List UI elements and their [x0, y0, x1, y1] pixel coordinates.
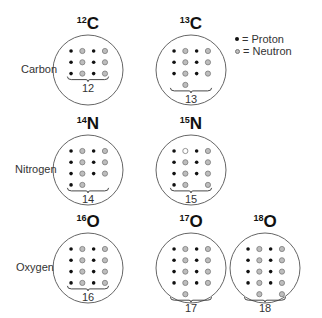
neutron-dot-icon	[80, 71, 85, 76]
neutron-dot-icon	[183, 148, 188, 153]
legend: = Proton = Neutron	[235, 33, 292, 57]
mass-number: 12	[82, 82, 94, 94]
neutron-dot-icon	[205, 60, 210, 65]
nucleus-circle	[230, 233, 300, 303]
neutron-dot-icon	[257, 280, 262, 285]
nucleus-circle	[53, 35, 123, 105]
proton-dot-icon	[172, 259, 176, 263]
isotope-c-12: 12C12	[53, 14, 123, 105]
proton-dot-icon	[69, 281, 73, 285]
isotope-n-14: 14N14	[53, 114, 123, 205]
mass-number: 18	[259, 302, 271, 314]
neutron-dot-icon	[102, 48, 107, 53]
neutron-dot-icon	[183, 258, 188, 263]
proton-dot-icon	[69, 149, 73, 153]
proton-dot-icon	[235, 37, 239, 41]
proton-dot-icon	[92, 281, 96, 285]
isotope-label: 13C	[180, 14, 202, 33]
neutron-dot-icon	[80, 48, 85, 53]
proton-dot-icon	[172, 172, 176, 176]
neutron-dot-icon	[183, 171, 188, 176]
proton-dot-icon	[195, 270, 199, 274]
isotope-label: 17O	[179, 212, 202, 231]
isotope-label: 12C	[77, 14, 99, 33]
isotope-o-17: 17O17	[156, 212, 226, 314]
proton-dot-icon	[69, 72, 73, 76]
proton-dot-icon	[172, 72, 176, 76]
mass-number: 17	[185, 302, 197, 314]
neutron-dot-icon	[183, 182, 188, 187]
neutron-dot-icon	[205, 48, 210, 53]
neutron-dot-icon	[205, 148, 210, 153]
neutron-dot-icon	[80, 269, 85, 274]
neutron-dot-icon	[205, 182, 210, 187]
neutron-dot-icon	[205, 171, 210, 176]
neutron-dot-icon	[80, 258, 85, 263]
proton-dot-icon	[246, 259, 250, 263]
neutron-dot-icon	[205, 246, 210, 251]
neutron-dot-icon	[102, 60, 107, 65]
neutron-dot-icon	[205, 269, 210, 274]
proton-dot-icon	[195, 161, 199, 165]
proton-dot-icon	[195, 281, 199, 285]
proton-dot-icon	[195, 61, 199, 65]
neutron-dot-icon	[102, 71, 107, 76]
proton-dot-icon	[92, 49, 96, 53]
neutron-dot-icon	[102, 148, 107, 153]
legend-proton: = Proton	[235, 33, 292, 45]
isotope-diagram: 12C1213C1314N1415N1516O1617O1718O18 Carb…	[0, 0, 322, 318]
neutron-dot-icon	[102, 246, 107, 251]
proton-dot-icon	[195, 72, 199, 76]
proton-dot-icon	[269, 270, 273, 274]
isotope-o-18: 18O18	[230, 212, 300, 314]
proton-dot-icon	[69, 247, 73, 251]
neutron-dot-icon	[205, 280, 210, 285]
neutron-dot-icon	[102, 160, 107, 165]
proton-dot-icon	[69, 172, 73, 176]
neutron-dot-icon	[102, 171, 107, 176]
neutron-dot-icon	[257, 258, 262, 263]
isotope-label: 16O	[76, 212, 99, 231]
neutron-dot-icon	[183, 292, 188, 297]
isotope-c-13: 13C13	[156, 14, 226, 105]
proton-dot-icon	[195, 149, 199, 153]
proton-dot-icon	[92, 61, 96, 65]
neutron-dot-icon	[80, 160, 85, 165]
nucleus-circle	[156, 233, 226, 303]
proton-dot-icon	[195, 259, 199, 263]
neutron-dot-icon	[183, 48, 188, 53]
proton-dot-icon	[195, 172, 199, 176]
proton-dot-icon	[69, 49, 73, 53]
proton-dot-icon	[246, 270, 250, 274]
neutron-dot-icon	[102, 258, 107, 263]
neutron-dot-icon	[205, 160, 210, 165]
neutron-dot-icon	[80, 171, 85, 176]
proton-dot-icon	[69, 61, 73, 65]
neutron-dot-icon	[102, 280, 107, 285]
proton-dot-icon	[269, 247, 273, 251]
neutron-dot-icon	[102, 269, 107, 274]
neutron-dot-icon	[279, 269, 284, 274]
neutron-dot-icon	[205, 258, 210, 263]
proton-dot-icon	[172, 161, 176, 165]
row-label-nitrogen: Nitrogen	[15, 163, 57, 175]
proton-dot-icon	[269, 281, 273, 285]
proton-dot-icon	[69, 270, 73, 274]
proton-dot-icon	[172, 281, 176, 285]
neutron-dot-icon	[235, 49, 240, 54]
proton-dot-icon	[172, 183, 176, 187]
isotope-o-16: 16O16	[53, 212, 123, 303]
proton-dot-icon	[92, 172, 96, 176]
neutron-dot-icon	[80, 182, 85, 187]
proton-dot-icon	[172, 49, 176, 53]
legend-neutron-label: = Neutron	[243, 45, 292, 57]
proton-dot-icon	[172, 247, 176, 251]
neutron-dot-icon	[80, 246, 85, 251]
mass-number: 13	[185, 93, 197, 105]
proton-dot-icon	[92, 259, 96, 263]
isotope-n-15: 15N15	[156, 114, 226, 205]
proton-dot-icon	[69, 183, 73, 187]
row-label-carbon: Carbon	[21, 63, 57, 75]
neutron-dot-icon	[257, 269, 262, 274]
proton-dot-icon	[246, 247, 250, 251]
